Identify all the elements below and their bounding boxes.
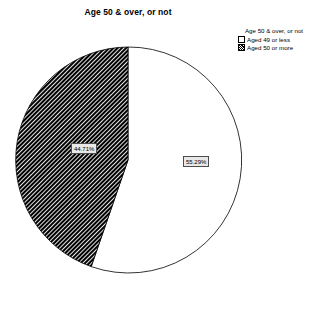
chart-title: Age 50 & over, or not (28, 7, 228, 18)
pie-chart: Age 50 & over, or not 44.71% 55.29% Age … (0, 0, 313, 309)
legend-item-aged-50-or-more[interactable]: Aged 50 or more (236, 44, 312, 52)
legend-swatch-white-icon (238, 36, 245, 43)
legend-item-aged-49-or-less[interactable]: Aged 49 or less (236, 36, 312, 44)
legend-swatch-hatched-icon (238, 44, 245, 51)
legend-title: Age 50 & over, or not (236, 27, 312, 35)
data-label-aged-49-or-less: 55.29% (183, 156, 209, 167)
chart-legend: Age 50 & over, or not Aged 49 or less Ag… (236, 27, 312, 52)
legend-label-aged-49-or-less: Aged 49 or less (247, 36, 290, 44)
legend-label-aged-50-or-more: Aged 50 or more (247, 44, 293, 52)
data-label-aged-50-or-more: 44.71% (71, 143, 97, 154)
